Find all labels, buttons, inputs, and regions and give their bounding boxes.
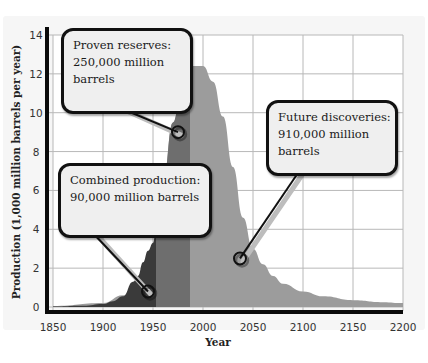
y-axis-title: Production (1,000 million barrels per ye… — [10, 45, 22, 300]
x-tick-label: 2200 — [390, 321, 417, 333]
x-tick-label: 1850 — [40, 321, 67, 333]
x-axis-ticks: 18501900195020002050210021502200 — [40, 321, 417, 333]
callout-proven-line2: 250,000 million — [73, 54, 181, 71]
x-tick-label: 2000 — [190, 321, 217, 333]
x-axis-title: Year — [204, 336, 231, 348]
x-tick-label: 1950 — [140, 321, 167, 333]
x-tick-label: 1900 — [90, 321, 117, 333]
y-tick-label: 6 — [33, 184, 40, 196]
y-tick-label: 14 — [29, 29, 43, 41]
y-axis-ticks: 02468101214 — [29, 29, 43, 313]
x-tick-label: 2150 — [340, 321, 367, 333]
y-tick-label: 4 — [33, 223, 40, 235]
callout-future-line1: Future discoveries: — [278, 109, 386, 126]
y-tick-label: 8 — [33, 146, 40, 158]
callout-proven-reserves: Proven reserves: 250,000 million barrels — [61, 28, 193, 114]
callout-future-discoveries: Future discoveries: 910,000 million barr… — [266, 100, 398, 176]
callout-proven-line1: Proven reserves: — [73, 37, 181, 54]
y-tick-label: 10 — [29, 107, 42, 119]
callout-future-line2: 910,000 million — [278, 126, 386, 143]
callout-proven-line3: barrels — [73, 71, 181, 88]
x-tick-label: 2050 — [240, 321, 267, 333]
y-tick-label: 12 — [29, 68, 42, 80]
callout-combined-production: Combined production: 90,000 million barr… — [58, 163, 212, 238]
callout-combined-line1: Combined production: — [70, 172, 200, 189]
x-tick-label: 2100 — [290, 321, 317, 333]
y-tick-label: 2 — [33, 262, 40, 274]
y-tick-label: 0 — [33, 301, 40, 313]
callout-future-line3: barrels — [278, 143, 386, 160]
callout-combined-line2: 90,000 million barrels — [70, 189, 200, 206]
